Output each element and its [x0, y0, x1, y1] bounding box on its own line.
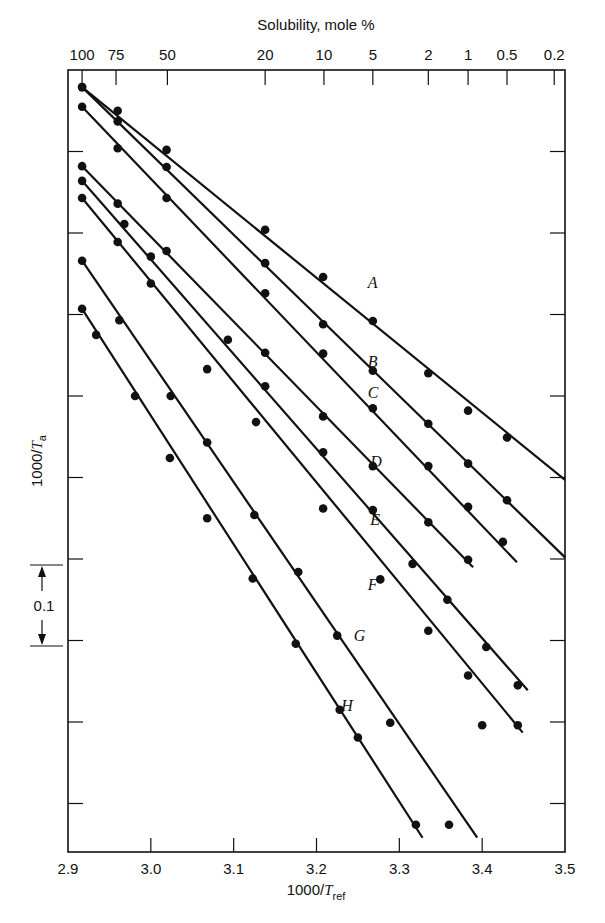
data-point-c: [261, 289, 270, 298]
top-tick-label: 0.5: [497, 46, 518, 63]
data-point-h: [92, 331, 101, 340]
data-point-a: [369, 317, 378, 326]
plot-border: [68, 70, 565, 852]
data-point-e: [78, 177, 87, 186]
data-point-e: [147, 252, 156, 261]
data-point-a: [424, 369, 433, 378]
data-point-d: [464, 556, 473, 565]
x-tick-label: 3.3: [389, 860, 410, 877]
data-point-h: [412, 820, 421, 829]
data-point-f: [319, 504, 328, 513]
data-point-g: [333, 631, 342, 640]
top-tick-label: 20: [257, 46, 274, 63]
top-axis-title: Solubility, mole %: [257, 16, 374, 33]
line-label-c: C: [368, 384, 379, 401]
data-point-g: [445, 820, 454, 829]
data-point-a: [464, 406, 473, 415]
data-point-g: [386, 719, 395, 728]
data-point-f: [252, 418, 261, 427]
data-point-a: [503, 433, 512, 442]
plot-frame: [68, 70, 565, 852]
top-tick-label: 2: [424, 46, 432, 63]
data-point-h: [166, 454, 175, 463]
scale-bar-label: 0.1: [34, 597, 55, 614]
x-tick-label: 3.0: [140, 860, 161, 877]
data-point-f: [147, 279, 156, 288]
data-point-h: [291, 639, 300, 648]
data-point-f: [478, 721, 487, 730]
data-point-g: [166, 392, 175, 401]
data-point-g: [203, 438, 212, 447]
data-point-c: [319, 349, 328, 358]
data-point-c: [464, 503, 473, 512]
data-point-d: [319, 412, 328, 421]
data-point-e: [261, 382, 270, 391]
data-point-e: [482, 643, 491, 652]
line-label-e: E: [369, 511, 380, 528]
data-point-e: [319, 448, 328, 457]
data-point-e: [513, 681, 522, 690]
data-point-g: [250, 511, 259, 520]
data-point-f: [203, 365, 212, 374]
data-point-h: [131, 392, 140, 401]
data-point-a: [319, 273, 328, 282]
data-point-f: [424, 626, 433, 635]
x-tick-label: 3.4: [472, 860, 493, 877]
x-axis-tick-labels: 2.93.03.13.23.33.43.5: [58, 860, 576, 877]
data-point-a: [162, 146, 171, 155]
svg-text:1000/Ta: 1000/Ta: [28, 434, 48, 487]
x-tick-label: 3.2: [306, 860, 327, 877]
x-tick-label: 3.1: [223, 860, 244, 877]
line-label-f: F: [367, 576, 378, 593]
data-point-f: [464, 671, 473, 680]
scale-bar: 0.1: [30, 565, 63, 646]
data-point-h: [203, 514, 212, 523]
top-tick-label: 0.2: [544, 46, 565, 63]
data-point-c: [424, 462, 433, 471]
top-tick-label: 50: [159, 46, 176, 63]
data-point-d: [162, 247, 171, 256]
data-point-b: [113, 117, 122, 126]
top-tick-label: 100: [70, 46, 95, 63]
data-point-g: [115, 316, 124, 325]
line-label-d: D: [369, 453, 382, 470]
line-label-b: B: [368, 353, 378, 370]
data-point-d: [424, 518, 433, 527]
data-point-f: [113, 238, 122, 247]
data-point-g: [294, 568, 303, 577]
data-point-b: [424, 419, 433, 428]
data-point-f: [78, 194, 87, 203]
data-point-d: [261, 349, 270, 358]
data-point-b: [162, 163, 171, 172]
top-tick-label: 75: [108, 46, 125, 63]
data-point-c: [78, 102, 87, 111]
data-point-e: [408, 560, 417, 569]
data-point-h: [248, 574, 257, 583]
data-point-b: [78, 83, 87, 92]
top-tick-label: 1: [464, 46, 472, 63]
data-point-b: [319, 320, 328, 329]
data-point-a: [113, 106, 122, 115]
data-point-f: [513, 721, 522, 730]
x-axis-title: 1000/Tref: [287, 881, 347, 902]
x-tick-label: 2.9: [58, 860, 79, 877]
line-label-a: A: [367, 274, 378, 291]
data-point-d: [224, 335, 233, 344]
data-point-c: [113, 144, 122, 153]
solubility-chart: Solubility, mole % 100755020105210.50.2 …: [0, 0, 605, 923]
data-point-d: [78, 162, 87, 171]
line-label-h: H: [340, 697, 354, 714]
fit-line-g: [82, 261, 477, 838]
line-label-g: G: [354, 627, 366, 644]
axis-ticks: [68, 70, 565, 852]
fit-line-c: [82, 107, 517, 563]
data-point-h: [354, 733, 363, 742]
data-point-h: [78, 304, 87, 313]
data-point-a: [261, 225, 270, 234]
data-point-c: [162, 194, 171, 203]
top-tick-label: 10: [316, 46, 333, 63]
fit-line-d: [82, 166, 473, 567]
fit-lines: [82, 87, 565, 838]
x-tick-label: 3.5: [555, 860, 576, 877]
data-point-e: [443, 595, 452, 604]
